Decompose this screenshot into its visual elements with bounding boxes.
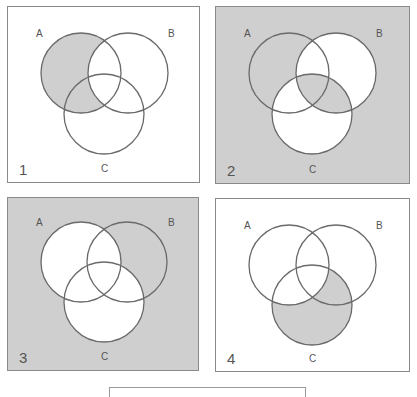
- set-label-c: C: [101, 351, 108, 362]
- venn-panel-2: A B C 2: [215, 6, 410, 184]
- caption-box: [109, 387, 306, 397]
- set-label-b: B: [376, 28, 383, 39]
- set-label-c: C: [309, 164, 316, 175]
- venn-panel-1: A B C 1: [7, 6, 200, 183]
- panel-number: 1: [19, 161, 27, 178]
- set-label-b: B: [168, 217, 175, 228]
- set-label-a: A: [36, 217, 43, 228]
- set-label-b: B: [168, 28, 175, 39]
- set-label-a: A: [244, 28, 251, 39]
- panel-number: 4: [227, 350, 235, 367]
- panel-number: 2: [227, 162, 235, 179]
- venn-panel-4: A B C 4: [215, 198, 410, 372]
- set-label-c: C: [309, 353, 316, 364]
- set-label-c: C: [101, 163, 108, 174]
- set-label-a: A: [244, 220, 251, 231]
- set-label-b: B: [376, 220, 383, 231]
- venn-panel-3: A B C 3: [7, 197, 199, 371]
- set-label-a: A: [36, 28, 43, 39]
- panel-number: 3: [19, 349, 27, 366]
